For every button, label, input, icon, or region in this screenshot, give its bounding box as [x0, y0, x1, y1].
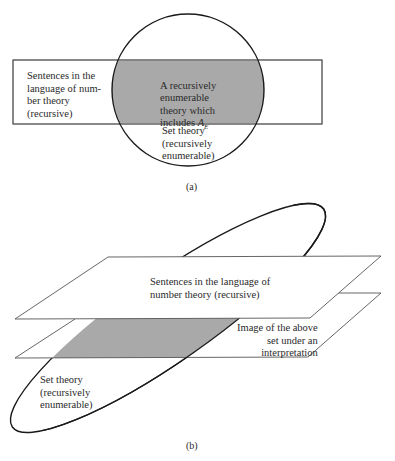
- lower-plane-label: Image of the above set under an interpre…: [237, 322, 318, 360]
- rectangle-label: Sentences in the language of num- ber th…: [27, 70, 101, 120]
- caption-b: (b): [186, 440, 198, 451]
- top-plane-label: Sentences in the language of number theo…: [150, 276, 270, 301]
- intersection-label: A recursively enumerable theory which in…: [160, 67, 216, 134]
- figure-b: [0, 174, 381, 461]
- ellipse-label: Set theory (recursively enumerable): [40, 374, 92, 412]
- circle-label: Set theory (recursively enumerable): [162, 125, 214, 163]
- caption-a: (a): [186, 181, 197, 192]
